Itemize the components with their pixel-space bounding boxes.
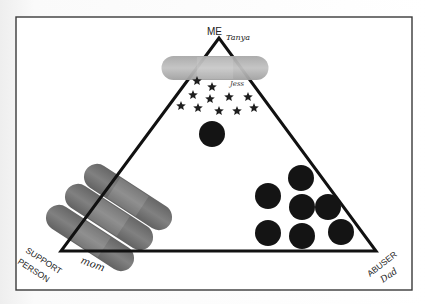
top-bandage <box>162 56 269 80</box>
circle-sticker <box>255 183 281 209</box>
circle-sticker <box>328 219 354 245</box>
star-scribble: Jess <box>228 80 245 88</box>
circle-sticker <box>315 194 341 220</box>
label-me: ME <box>207 26 222 37</box>
bandage-sticker <box>162 56 269 80</box>
handwritten-tanya: Tanya <box>226 33 250 42</box>
me-circle-stickers <box>199 121 225 147</box>
circle-sticker <box>289 194 315 220</box>
circle-sticker <box>255 220 281 246</box>
relationship-triangle-drawing: Jess ME Tanya SUPPORT PERSON mom ABUSER … <box>0 0 428 304</box>
circle-sticker <box>199 121 225 147</box>
circle-sticker <box>288 165 314 191</box>
circle-sticker <box>289 223 315 249</box>
drawing-canvas: Jess ME Tanya SUPPORT PERSON mom ABUSER … <box>0 0 428 304</box>
